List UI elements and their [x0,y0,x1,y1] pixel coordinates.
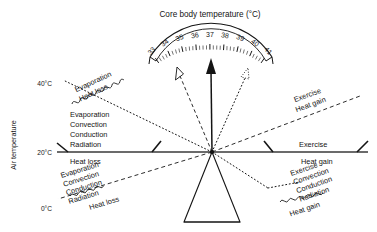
gauge-major-ticks [155,44,264,63]
gauge-left-cap [150,57,156,61]
gauge-right-edge [272,57,273,64]
label-middle-left: Evaporation Convection Conduction Radiat… [70,110,109,166]
middle-left-mechanism-2: Convection [70,120,107,129]
y-tick-20: 20°C [37,149,52,156]
lower-right-effect: Heat gain [288,200,321,219]
beam-left-outer-bracket [57,143,68,152]
gauge-number: 33 [146,45,157,56]
figure-canvas: Core body temperature (°C) [0,0,377,232]
pivot-point [210,150,214,154]
indicator-arrow-low [176,67,213,152]
beam-right-inner-bracket [264,141,273,152]
gauge-number: 35 [174,33,184,43]
gauge-number: 38 [220,31,229,39]
middle-right-mechanisms: Exercise [299,140,327,149]
fulcrum [184,150,240,222]
gauge-left-edge [149,57,150,64]
gauge-number: 39 [235,33,245,43]
gauge-number: 40 [250,38,260,48]
label-upper-right: Exercise Heat gain [291,85,327,114]
fulcrum-triangle [184,152,240,222]
needle-group [206,58,216,152]
indicator-low-arrowhead [176,67,184,80]
arm-upper-right [212,96,360,152]
beam-right-outer-bracket [357,141,368,152]
y-axis-label: Air temperature [9,120,18,170]
middle-left-mechanism-3: Conduction [70,130,107,139]
thermometer-gauge: 33 34 35 36 37 38 39 40 41 [146,23,273,64]
label-lower-right: Exercise Convection Conduction Radiation… [276,157,340,218]
arm-lower-right [212,152,268,188]
needle-arrowhead [206,58,216,74]
balance-diagram: Core body temperature (°C) [0,0,377,232]
indicator-low-shaft [180,76,212,152]
y-tick-0: 0°C [41,205,52,212]
indicator-high-shaft [212,78,245,152]
needle-shaft [211,70,212,152]
y-tick-40: 40°C [37,80,52,87]
gauge-number-labels: 33 34 35 36 37 38 39 40 41 [146,31,273,56]
gauge-number: 34 [159,38,169,48]
indicator-high-arrowhead [241,68,249,79]
beam-left-inner-bracket [152,141,161,152]
gauge-number: 37 [206,31,214,38]
label-upper-left: Evaporation Heat loss [73,69,117,103]
gauge-number: 36 [190,31,199,39]
indicator-arrow-high [212,68,249,152]
middle-left-mechanism-1: Evaporation [70,110,109,119]
gauge-title: Core body temperature (°C) [159,10,260,19]
label-lower-left: Evaporation Convection Conduction Radiat… [59,157,120,217]
gauge-right-cap [266,57,272,61]
middle-left-mechanism-4: Radiation [70,140,101,149]
